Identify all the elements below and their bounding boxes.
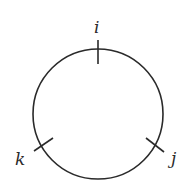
tick-j [146,138,164,152]
circle-diagram: i j k [0,0,191,186]
label-j: j [167,148,177,168]
label-i: i [94,17,99,37]
circle [33,49,163,179]
label-k: k [15,149,25,169]
